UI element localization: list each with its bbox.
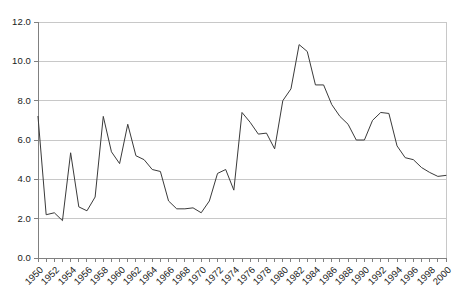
gridlines [38, 22, 446, 219]
line-chart: 12.010.08.06.04.02.00.0 1950195219541956… [0, 0, 460, 293]
y-tick-label: 6.0 [1, 134, 31, 145]
chart-canvas [0, 0, 460, 293]
y-tick-label: 10.0 [1, 55, 31, 66]
y-tick-label: 8.0 [1, 95, 31, 106]
y-tick-label: 4.0 [1, 173, 31, 184]
y-axis-ticks [34, 22, 38, 258]
y-tick-label: 12.0 [1, 16, 31, 27]
data-series-line [38, 45, 446, 221]
y-tick-label: 0.0 [1, 252, 31, 263]
x-axis-ticks [38, 258, 446, 262]
y-tick-label: 2.0 [1, 213, 31, 224]
